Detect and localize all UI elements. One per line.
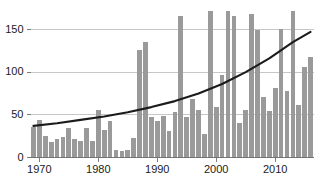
bar-1997 bbox=[196, 110, 201, 158]
bar-1987 bbox=[137, 50, 142, 158]
bar-1979 bbox=[90, 141, 95, 157]
y-tick-label-100: 100 bbox=[5, 65, 23, 77]
y-tick-label-150: 150 bbox=[5, 23, 23, 35]
bar-1993 bbox=[173, 112, 178, 157]
bar-1996 bbox=[190, 99, 195, 158]
bar-2009 bbox=[267, 111, 272, 158]
bar-1982 bbox=[108, 121, 113, 158]
bar-1972 bbox=[49, 142, 54, 157]
y-tick-label-0: 0 bbox=[17, 151, 23, 163]
bar-1991 bbox=[161, 116, 166, 158]
bar-2013 bbox=[291, 11, 296, 157]
bar-2016 bbox=[308, 57, 313, 158]
bar-2015 bbox=[302, 67, 307, 158]
bar-2014 bbox=[296, 105, 301, 158]
bar-1974 bbox=[61, 137, 66, 158]
bar-1985 bbox=[125, 150, 130, 158]
x-tick-label-2010: 2010 bbox=[263, 163, 287, 175]
bar-2004 bbox=[237, 123, 242, 157]
bar-1976 bbox=[72, 139, 77, 158]
bar-1995 bbox=[184, 117, 189, 157]
bar-2000 bbox=[214, 107, 219, 157]
bar-2010 bbox=[273, 88, 278, 157]
x-tick-label-1970: 1970 bbox=[27, 163, 51, 175]
bar-1983 bbox=[114, 150, 119, 158]
bar-1978 bbox=[84, 128, 89, 157]
bar-2012 bbox=[285, 91, 290, 158]
bar-2003 bbox=[232, 16, 237, 158]
bar-2007 bbox=[255, 30, 260, 157]
bar-1990 bbox=[155, 121, 160, 158]
bar-1973 bbox=[55, 139, 60, 158]
bar-1984 bbox=[120, 151, 125, 158]
bar-1989 bbox=[149, 117, 154, 157]
bar-1988 bbox=[143, 42, 148, 157]
bar-2008 bbox=[261, 97, 266, 158]
y-axis-tick-labels: 050100150 bbox=[5, 23, 30, 163]
bar-1999 bbox=[208, 11, 213, 158]
chart-plot: 050100150 19701980199020002010 bbox=[0, 0, 318, 184]
x-tick-label-2000: 2000 bbox=[204, 163, 228, 175]
bar-1971 bbox=[43, 136, 48, 157]
bar-2005 bbox=[243, 110, 248, 158]
chart-container: 050100150 19701980199020002010 bbox=[0, 0, 318, 184]
bar-2002 bbox=[226, 11, 231, 157]
bar-1992 bbox=[167, 131, 172, 157]
bar-1998 bbox=[202, 134, 207, 158]
y-tick-label-50: 50 bbox=[11, 108, 23, 120]
bar-1969 bbox=[31, 127, 36, 158]
x-tick-label-1980: 1980 bbox=[86, 163, 110, 175]
bar-2006 bbox=[249, 14, 254, 158]
x-tick-label-1990: 1990 bbox=[145, 163, 169, 175]
bar-1986 bbox=[131, 138, 136, 158]
x-axis-tick-labels: 19701980199020002010 bbox=[27, 158, 287, 175]
bar-1977 bbox=[78, 141, 83, 157]
bar-series bbox=[31, 11, 313, 158]
bar-1975 bbox=[66, 128, 71, 157]
bar-1994 bbox=[178, 16, 183, 158]
bar-1981 bbox=[102, 130, 107, 157]
bar-2001 bbox=[220, 75, 225, 157]
